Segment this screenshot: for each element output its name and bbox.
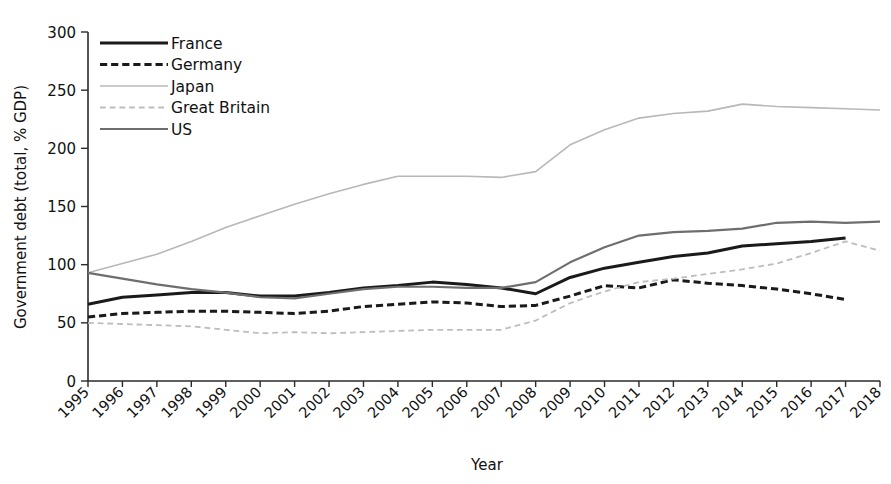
x-tick-label: 2018 <box>847 384 884 421</box>
legend-label-great-britain: Great Britain <box>171 99 270 117</box>
x-tick-label: 2003 <box>330 384 367 421</box>
x-axis-title: Year <box>470 456 504 474</box>
y-tick-label: 150 <box>47 198 76 216</box>
legend-label-us: US <box>171 121 192 139</box>
y-tick-label: 300 <box>47 24 76 42</box>
line-chart: 0501001502002503001995199619971998199920… <box>0 0 891 484</box>
x-tick-label: 1999 <box>192 384 229 421</box>
x-tick-label: 2002 <box>296 384 333 421</box>
x-tick-label: 2016 <box>778 384 815 421</box>
x-tick-label: 2011 <box>606 384 643 421</box>
y-tick-label: 0 <box>66 373 76 391</box>
series-line-japan <box>88 104 880 273</box>
legend-label-japan: Japan <box>170 78 214 96</box>
y-tick-label: 200 <box>47 140 76 158</box>
x-tick-label: 2014 <box>709 384 746 421</box>
x-tick-label: 2009 <box>537 384 574 421</box>
series-group <box>88 104 880 333</box>
y-tick-label: 100 <box>47 256 76 274</box>
x-tick-label: 2007 <box>468 384 505 421</box>
x-tick-label: 2000 <box>227 384 264 421</box>
x-tick-label: 1996 <box>89 384 126 421</box>
x-tick-label: 2001 <box>261 384 298 421</box>
x-tick-label: 2017 <box>812 384 849 421</box>
y-tick-label: 50 <box>57 314 76 332</box>
x-tick-label: 1997 <box>124 384 161 421</box>
chart-container: 0501001502002503001995199619971998199920… <box>0 0 891 484</box>
y-axis-title: Government debt (total, % GDP) <box>12 85 30 329</box>
x-tick-label: 2005 <box>399 384 436 421</box>
x-tick-label: 2012 <box>640 384 677 421</box>
x-tick-label: 2008 <box>502 384 539 421</box>
x-tick-label: 2010 <box>571 384 608 421</box>
legend-label-germany: Germany <box>171 56 242 74</box>
x-tick-label: 2013 <box>675 384 712 421</box>
legend-label-france: France <box>171 35 223 53</box>
x-tick-label: 1998 <box>158 384 195 421</box>
y-tick-label: 250 <box>47 82 76 100</box>
x-tick-label: 2004 <box>365 384 402 421</box>
chart-legend: FranceGermanyJapanGreat BritainUS <box>100 35 270 139</box>
x-tick-label: 2015 <box>743 384 780 421</box>
x-tick-label: 2006 <box>433 384 470 421</box>
